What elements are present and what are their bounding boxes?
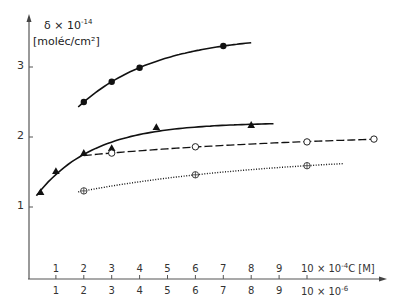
x-tick-label-lower: 6 [192, 286, 198, 296]
open-circle-marker-icon [304, 139, 310, 145]
open-circle-marker-icon [371, 136, 377, 142]
x-axis-label-upper-suffix: C [M] [348, 263, 375, 274]
x-tick-label-upper: 2 [81, 264, 87, 274]
x-tick-label-lower: 5 [164, 286, 170, 296]
x-tick-label-upper: 5 [164, 264, 170, 274]
series-curve [36, 124, 273, 196]
x-tick-label-lower: 1 [53, 286, 59, 296]
x-axis-label-lower: 10 × 10-6 [301, 286, 348, 297]
x-tick-label-lower: 9 [276, 286, 282, 296]
filled-circle-marker-icon [109, 79, 115, 85]
series-curve [78, 43, 251, 107]
y-tick-label: 1 [17, 200, 24, 211]
crossed-circle-marker-icon [192, 172, 198, 178]
series-markers [37, 43, 377, 195]
x-tick-label-lower: 3 [109, 286, 115, 296]
filled-circle-marker-icon [81, 99, 87, 105]
series-curves [36, 43, 376, 196]
x-tick-label-upper: 4 [136, 264, 142, 274]
y-axis-arrow-icon [27, 14, 32, 22]
crossed-circle-marker-icon [81, 188, 87, 194]
x-tick-label-lower: 8 [248, 286, 254, 296]
filled-circle-marker-icon [136, 65, 142, 71]
x-axis-arrow-icon [379, 277, 387, 282]
x-axis-label-lower-prefix: 10 × 10 [301, 286, 341, 297]
y-tick-label: 3 [17, 60, 24, 71]
filled-triangle-marker-icon [153, 123, 161, 130]
x-tick-label-upper: 6 [192, 264, 198, 274]
open-circle-marker-icon [192, 144, 198, 150]
x-axis-label-upper-prefix: 10 × 10 [301, 263, 341, 274]
x-tick-label-upper: 7 [220, 264, 226, 274]
y-axis-unit-text: [moléc/cm²] [33, 35, 100, 48]
x-tick-label-lower: 7 [220, 286, 226, 296]
series-curve [84, 139, 377, 155]
x-tick-label-upper: 3 [109, 264, 115, 274]
y-axis-unit: [moléc/cm²] [33, 36, 100, 47]
y-axis-label-main: δ × 10 [44, 19, 81, 32]
x-tick-label-lower: 2 [81, 286, 87, 296]
y-tick-label: 2 [17, 130, 24, 141]
crossed-circle-marker-icon [304, 163, 310, 169]
x-tick-label-upper: 8 [248, 264, 254, 274]
series-curve [78, 164, 343, 192]
y-axis-label: δ × 10-14 [44, 19, 92, 31]
filled-triangle-marker-icon [37, 188, 45, 195]
open-circle-marker-icon [109, 150, 115, 156]
x-axis-label-lower-exponent: -6 [341, 285, 348, 293]
x-axis-label-upper: 10 × 10-4C [M] [301, 263, 375, 274]
y-axis-label-exponent: -14 [81, 18, 92, 26]
filled-triangle-marker-icon [52, 167, 60, 174]
x-tick-label-lower: 4 [136, 286, 142, 296]
x-tick-label-upper: 1 [53, 264, 59, 274]
x-tick-label-upper: 9 [276, 264, 282, 274]
filled-circle-marker-icon [220, 43, 226, 49]
